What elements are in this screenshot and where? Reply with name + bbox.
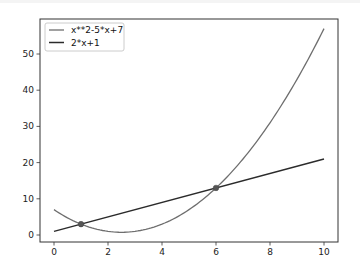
y-tick-label: 10	[23, 194, 35, 204]
y-tick-label: 40	[23, 85, 35, 95]
series-line-quadratic	[54, 29, 324, 233]
x-tick-label: 0	[51, 247, 57, 257]
x-tick-label: 4	[159, 247, 165, 257]
axes-frame	[40, 19, 338, 242]
y-tick-label: 0	[28, 230, 34, 240]
intersection-point	[213, 185, 219, 191]
x-tick-label: 6	[213, 247, 219, 257]
series-layer	[54, 29, 324, 233]
x-tick-label: 2	[105, 247, 111, 257]
y-tick-label: 30	[23, 121, 35, 131]
series-line-linear	[54, 159, 324, 231]
legend: x**2-5*x+72*x+1	[45, 23, 124, 51]
x-axis: 0246810	[51, 242, 330, 257]
intersection-point	[78, 221, 84, 227]
legend-label: x**2-5*x+7	[71, 25, 123, 35]
y-tick-label: 20	[23, 158, 35, 168]
x-tick-label: 10	[318, 247, 330, 257]
plot-area	[40, 19, 338, 242]
legend-label: 2*x+1	[71, 38, 100, 48]
x-tick-label: 8	[267, 247, 273, 257]
y-tick-label: 50	[23, 49, 35, 59]
y-axis: 01020304050	[23, 49, 40, 240]
chart: 0246810 01020304050 x**2-5*x+72*x+1	[0, 0, 360, 272]
